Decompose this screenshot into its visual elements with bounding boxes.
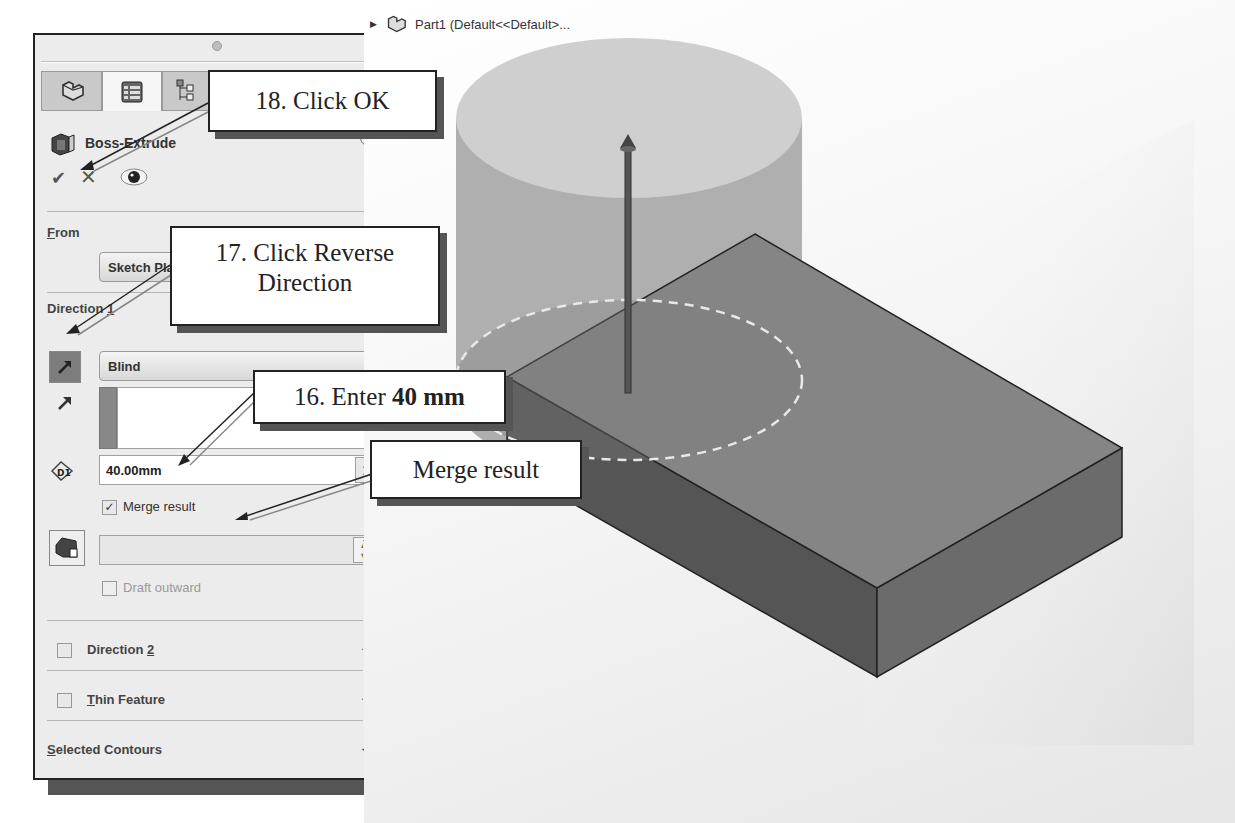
- tab-configuration-manager[interactable]: [162, 71, 212, 111]
- merge-result-checkbox[interactable]: ✓: [102, 500, 117, 515]
- merge-result-label: Merge result: [123, 499, 195, 514]
- draft-angle-input[interactable]: [99, 535, 377, 565]
- draft-toggle-button[interactable]: [49, 530, 85, 566]
- feature-title: Boss-Extrude: [85, 135, 176, 151]
- direction-arrow-icon: [55, 393, 75, 417]
- draft-outward-label: Draft outward: [123, 580, 201, 595]
- callout-step18: 18. Click OK: [208, 70, 437, 132]
- extrude-direction-handle[interactable]: [625, 148, 631, 393]
- feature-header: Boss-Extrude: [49, 130, 176, 156]
- callout-step16: 16. Enter 40 mm: [253, 370, 506, 424]
- reverse-direction-icon: [55, 357, 75, 377]
- direction2-checkbox[interactable]: [57, 643, 72, 658]
- thin-feature-section-label[interactable]: Thin Feature: [87, 692, 165, 707]
- cancel-button[interactable]: ✕: [80, 165, 97, 189]
- tab-feature-manager[interactable]: [41, 71, 102, 111]
- reverse-direction-button[interactable]: [49, 351, 81, 383]
- callout-step17-line2: Direction: [172, 268, 438, 298]
- divider: [41, 61, 392, 63]
- callout-step16-value: 40 mm: [392, 383, 465, 410]
- draft-outward-checkbox[interactable]: [102, 581, 117, 596]
- panel-grip-handle[interactable]: [212, 41, 222, 51]
- selection-color-swatch: [99, 387, 117, 449]
- svg-text:D1: D1: [57, 468, 71, 478]
- callout-step16-text: 16. Enter: [294, 383, 392, 410]
- callout-step17-line1: 17. Click Reverse: [172, 238, 438, 268]
- callout-step17: 17. Click Reverse Direction: [170, 226, 440, 326]
- divider: [47, 211, 386, 212]
- direction1-section-label: Direction 1: [47, 301, 114, 316]
- action-buttons: ✔ ✕: [51, 165, 149, 189]
- property-list-icon: [119, 80, 145, 104]
- draft-icon: [53, 535, 81, 561]
- depth-dimension-icon: D1: [49, 459, 75, 487]
- thin-feature-checkbox[interactable]: [57, 693, 72, 708]
- tab-property-manager[interactable]: [102, 71, 162, 111]
- boss-extrude-icon: [49, 130, 77, 156]
- part-icon: [59, 79, 85, 103]
- callout-merge-result: Merge result: [370, 440, 582, 499]
- from-section-label: From: [47, 225, 80, 240]
- selected-contours-section-label[interactable]: Selected Contours: [47, 742, 162, 757]
- preview-eye-icon[interactable]: [119, 167, 149, 187]
- ok-button[interactable]: ✔: [51, 167, 66, 188]
- depth-input[interactable]: 40.00mm: [99, 455, 377, 485]
- direction2-section-label[interactable]: Direction 2: [87, 642, 154, 657]
- configuration-icon: [175, 78, 199, 104]
